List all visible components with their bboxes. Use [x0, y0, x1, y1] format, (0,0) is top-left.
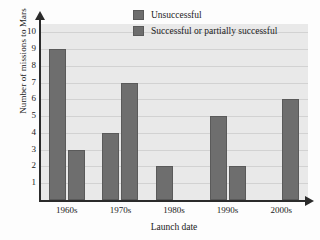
gridline — [40, 83, 308, 84]
chart-legend: Unsuccessful Successful or partially suc… — [133, 7, 315, 39]
gridline — [40, 99, 308, 100]
x-axis-line — [39, 200, 307, 202]
bar — [210, 116, 227, 200]
x-tick-label: 1990s — [202, 204, 254, 216]
x-tick-label: 1980s — [148, 204, 200, 216]
bar-chart-figure: 12345678910 Number of missions to Mars 1… — [0, 0, 320, 240]
y-tick-label: 2 — [16, 161, 36, 170]
y-axis-line — [39, 18, 41, 202]
y-tick-label: 3 — [16, 145, 36, 154]
legend-item-unsuccessful: Unsuccessful — [133, 7, 315, 22]
y-axis-title: Number of missions to Mars — [18, 0, 28, 146]
legend-label: Unsuccessful — [151, 10, 202, 20]
x-tick-label: 2000s — [255, 204, 307, 216]
gridline — [40, 133, 308, 134]
legend-label: Successful or partially successful — [151, 26, 277, 36]
bar — [121, 83, 138, 200]
y-tick-label: 1 — [16, 178, 36, 187]
bar — [282, 99, 299, 200]
legend-swatch-icon — [133, 26, 144, 36]
y-axis-arrow-icon — [35, 11, 45, 20]
x-axis-title: Launch date — [40, 222, 308, 232]
gridline — [40, 116, 308, 117]
x-tick-label: 1960s — [41, 204, 93, 216]
plot-area — [40, 24, 308, 200]
legend-item-successful: Successful or partially successful — [133, 23, 315, 38]
legend-swatch-icon — [133, 10, 144, 20]
bar — [49, 49, 66, 200]
x-axis-tick-labels: 1960s1970s1980s1990s2000s — [40, 204, 308, 218]
bar — [156, 166, 173, 200]
x-tick-label: 1970s — [94, 204, 146, 216]
bar — [229, 166, 246, 200]
bar — [102, 133, 119, 200]
gridline — [40, 49, 308, 50]
gridline — [40, 66, 308, 67]
bar — [68, 150, 85, 200]
